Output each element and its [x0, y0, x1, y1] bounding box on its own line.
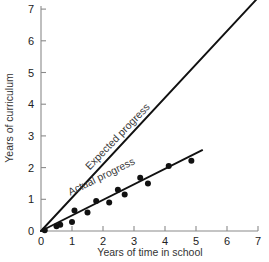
- trend-line-expected-progress: [41, 0, 259, 231]
- data-point-4: [71, 207, 77, 213]
- chart-plot-area: 01234567 01234567 Expected progressActua…: [0, 0, 269, 262]
- data-point-7: [106, 199, 112, 205]
- y-tick-label-7: 7: [28, 3, 34, 15]
- x-axis-title: Years of time in school: [97, 246, 202, 258]
- data-point-2: [57, 222, 63, 228]
- data-point-6: [93, 198, 99, 204]
- x-axis-ticks: [72, 226, 258, 231]
- data-point-13: [188, 158, 194, 164]
- y-axis-tick-labels: 01234567: [28, 3, 34, 237]
- y-tick-label-1: 1: [28, 193, 34, 205]
- x-tick-label-1: 1: [69, 235, 75, 247]
- data-point-0: [42, 227, 48, 233]
- y-tick-label-5: 5: [28, 67, 34, 79]
- y-tick-label-3: 3: [28, 130, 34, 142]
- data-point-5: [85, 210, 91, 216]
- x-tick-label-0: 0: [38, 235, 44, 247]
- data-point-9: [122, 192, 128, 198]
- x-tick-label-7: 7: [255, 235, 261, 247]
- y-tick-label-6: 6: [28, 35, 34, 47]
- y-tick-label-4: 4: [28, 98, 34, 110]
- data-point-3: [69, 219, 75, 225]
- data-point-12: [166, 163, 172, 169]
- trend-lines-group: [41, 0, 259, 231]
- chart-figure: 01234567 01234567 Expected progressActua…: [0, 0, 269, 262]
- y-tick-label-0: 0: [28, 225, 34, 237]
- y-tick-label-2: 2: [28, 162, 34, 174]
- y-axis-title: Years of curriculum: [3, 73, 15, 163]
- data-point-10: [137, 175, 143, 181]
- data-point-11: [145, 180, 151, 186]
- y-axis-ticks: [41, 9, 46, 199]
- x-tick-label-6: 6: [224, 235, 230, 247]
- data-point-8: [115, 187, 121, 193]
